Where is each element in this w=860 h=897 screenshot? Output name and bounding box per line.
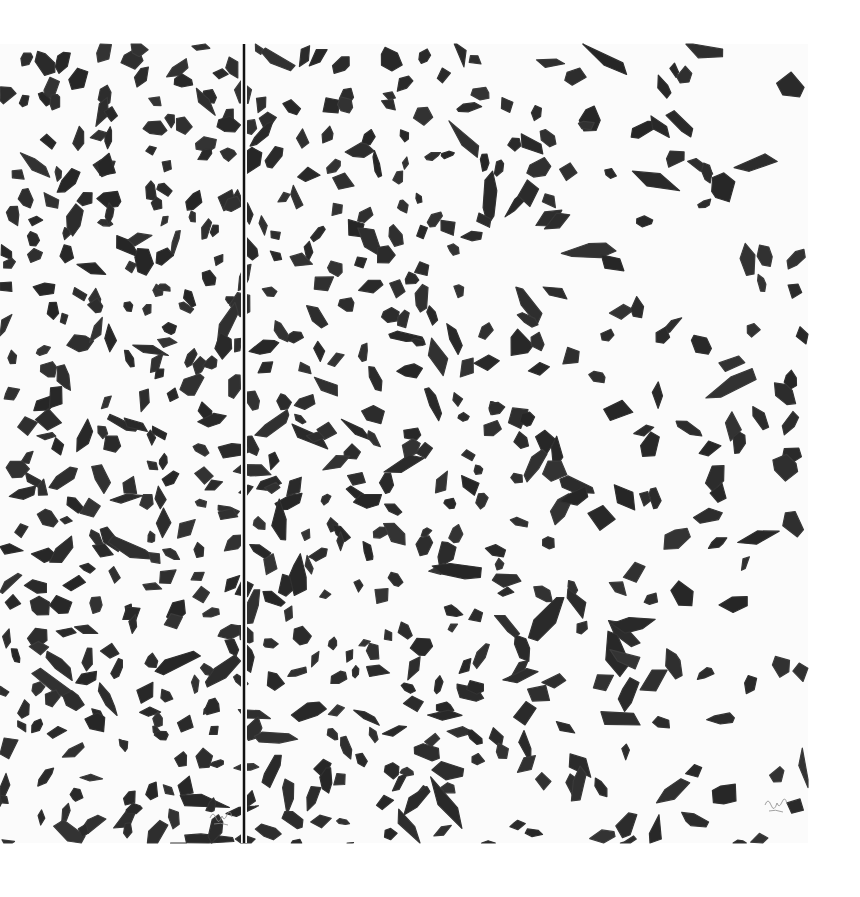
brush-stroke <box>162 161 171 172</box>
brush-stroke <box>49 387 62 408</box>
brush-stroke <box>601 712 640 725</box>
brush-stroke <box>147 461 158 470</box>
brush-stroke <box>12 170 24 179</box>
brush-stroke <box>271 231 280 239</box>
brush-stroke <box>189 211 195 222</box>
brush-stroke <box>332 203 342 215</box>
brush-stroke <box>404 428 421 440</box>
brush-stroke <box>50 95 59 110</box>
brush-stroke <box>90 597 102 614</box>
brush-stroke <box>104 436 121 452</box>
brush-stroke <box>0 282 12 292</box>
brush-stroke <box>195 499 206 507</box>
brush-stroke <box>0 795 8 804</box>
brush-stroke <box>235 338 242 352</box>
brush-stroke <box>209 726 218 734</box>
painting-canvas <box>0 0 860 897</box>
brush-stroke <box>375 589 388 604</box>
